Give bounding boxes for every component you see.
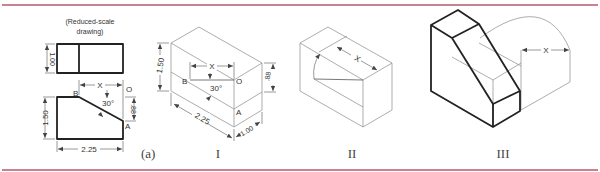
b-o-line bbox=[314, 79, 363, 80]
construction-line bbox=[493, 63, 521, 80]
construction-line bbox=[479, 43, 521, 66]
angle-arrow bbox=[99, 113, 103, 117]
offset-line bbox=[171, 72, 234, 109]
x-dimension-label: X bbox=[97, 81, 103, 90]
top-view-outline bbox=[57, 44, 123, 73]
box-edge bbox=[363, 110, 392, 127]
offset-dimension-label: .88 bbox=[130, 104, 137, 114]
front-view: 1.50 2.25 X .88 30° B O A bbox=[41, 80, 137, 154]
point-b-label: B bbox=[73, 89, 78, 98]
view-a-orthographic: (Reduced-scale drawing) 1.00 1.50 2.25 bbox=[41, 18, 155, 161]
point-a-label: A bbox=[236, 108, 242, 117]
top-view: 1.00 bbox=[45, 44, 123, 73]
step-3-isometric-solid: X III bbox=[431, 10, 570, 161]
solid-edge bbox=[452, 24, 479, 38]
box-top-face bbox=[171, 27, 262, 80]
solid-edge bbox=[493, 91, 520, 104]
height-dimension-label: 1.50 bbox=[41, 110, 50, 126]
figure-canvas: (Reduced-scale drawing) 1.00 1.50 2.25 bbox=[0, 0, 600, 172]
point-a-label: A bbox=[125, 122, 131, 131]
swing-arc bbox=[314, 54, 320, 79]
construction-line bbox=[521, 82, 570, 110]
isometric-construction-figure: (Reduced-scale drawing) 1.00 1.50 2.25 bbox=[0, 0, 600, 172]
reduced-scale-note-line2: drawing) bbox=[77, 28, 104, 36]
construction-line bbox=[452, 57, 493, 80]
solid-inner-edges bbox=[431, 24, 520, 127]
caption-a: (a) bbox=[141, 146, 155, 161]
point-b-label: B bbox=[182, 77, 187, 86]
solid-outline bbox=[431, 10, 520, 127]
caption-step-2: II bbox=[348, 146, 357, 161]
offset-line bbox=[234, 92, 262, 109]
solid-edge bbox=[431, 25, 452, 38]
depth-dimension-label: 1.00 bbox=[49, 52, 56, 66]
caption-step-3: III bbox=[497, 146, 510, 161]
b-line-on-top bbox=[319, 36, 347, 52]
width-dimension-label: 2.25 bbox=[81, 145, 97, 154]
box-edge bbox=[300, 91, 363, 127]
x-dimension-label: X bbox=[543, 46, 549, 55]
reduced-scale-note-line1: (Reduced-scale bbox=[65, 18, 114, 26]
angle-label: 30° bbox=[210, 84, 222, 93]
angle-arrow bbox=[208, 96, 211, 99]
step-1-isometric-box: X B O A 30° 1.50 2.25 1.00 .88 I bbox=[155, 27, 277, 161]
x-dimension-label: X bbox=[209, 62, 215, 71]
angle-label: 30° bbox=[102, 99, 114, 108]
point-o-label: O bbox=[126, 85, 132, 94]
swing-arc bbox=[480, 17, 570, 50]
step-2-isometric-box: X II bbox=[300, 27, 392, 161]
point-o-label: O bbox=[236, 77, 242, 86]
caption-step-1: I bbox=[216, 146, 220, 161]
solid-edge bbox=[452, 38, 493, 104]
